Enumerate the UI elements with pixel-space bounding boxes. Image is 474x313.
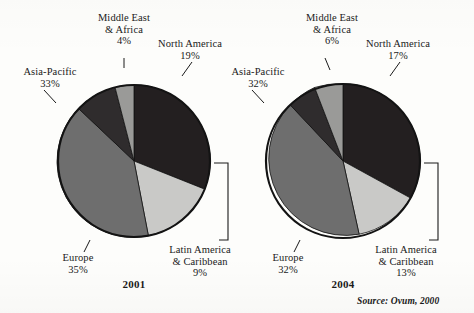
label-text-line1: Latin America: [375, 244, 437, 255]
label-europe-2004: Europe 32%: [248, 252, 328, 275]
label-latin-america-2004: Latin America & Caribbean 13%: [358, 244, 454, 279]
label-text: Asia-Pacific: [231, 66, 284, 77]
leader-north-america-2004: [390, 62, 400, 76]
bracket-latin-america-2004: [424, 163, 438, 240]
label-text: Europe: [273, 252, 304, 263]
pie-2004-slices: [266, 84, 420, 238]
figure-canvas: Middle East & Africa 4% North America 19…: [0, 0, 474, 313]
label-percent: 32%: [248, 264, 328, 276]
leader-europe-2004: [294, 240, 300, 252]
label-text: North America: [366, 38, 430, 49]
label-percent: 32%: [214, 78, 302, 90]
label-text-line2: & Caribbean: [378, 256, 433, 267]
leader-middle-east-2004: [325, 58, 330, 70]
leader-asia-pacific-2004: [252, 90, 264, 103]
source-note: Source: Ovum, 2000: [357, 296, 439, 306]
label-asia-pacific-2004: Asia-Pacific 32%: [214, 66, 302, 89]
year-label-2004: 2004: [313, 278, 373, 290]
label-text-line1: Middle East: [306, 12, 358, 23]
label-percent: 17%: [352, 50, 444, 62]
label-north-america-2004: North America 17%: [352, 38, 444, 61]
label-text-line2: & Africa: [313, 24, 351, 35]
